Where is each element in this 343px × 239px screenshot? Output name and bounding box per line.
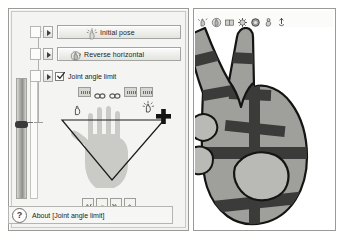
chain-link-icon[interactable]: [94, 87, 106, 97]
chevron-right-icon: [47, 52, 51, 58]
save-hand-icon[interactable]: [263, 14, 274, 25]
preview-toolbar: [196, 11, 333, 27]
slider-value-mark: [27, 122, 33, 123]
question-mark-glyph: ?: [13, 209, 26, 221]
preview-panel: [193, 8, 336, 231]
expand-row-3-button[interactable]: [43, 70, 53, 82]
joint-angle-limit-checkbox-row[interactable]: Joint angle limit: [55, 72, 116, 81]
gear-hand-icon[interactable]: [237, 14, 248, 25]
expand-row-2-button[interactable]: [43, 48, 53, 60]
joint-swatch-icon[interactable]: [140, 87, 153, 97]
chevron-right-icon: [47, 30, 51, 36]
joint-angle-limit-label: Joint angle limit: [68, 73, 116, 80]
arrow-slot-2: [30, 48, 41, 60]
checkmark-icon: [57, 72, 65, 80]
sparkle-hand-icon: [86, 26, 98, 38]
joint-icon-row: [78, 87, 153, 97]
slider-rail[interactable]: [30, 78, 38, 199]
joint-angle-limit-checkbox[interactable]: [55, 72, 64, 81]
left-panel: Initial pose Reverse horizontal: [8, 8, 189, 231]
about-bar[interactable]: ? About [Joint angle limit]: [8, 206, 173, 224]
arrow-slot-1: [30, 26, 41, 38]
slider-guide-tick: [34, 122, 43, 123]
reverse-horizontal-label: Reverse horizontal: [84, 51, 144, 58]
joint-swatch-icon[interactable]: [124, 87, 137, 97]
rotate-hand-icon[interactable]: [250, 14, 261, 25]
v-sign-hand-illustration[interactable]: [195, 27, 334, 229]
spread-hand-icon: [142, 100, 154, 112]
slider-track[interactable]: [16, 78, 27, 199]
hand-palm-diagram[interactable]: [52, 98, 182, 190]
about-text: About [Joint angle limit]: [32, 212, 104, 219]
flip-hand-icon[interactable]: [224, 14, 235, 25]
grab-hand-icon: [72, 102, 84, 114]
crosshair-plus-marker: [156, 109, 171, 124]
initial-pose-button[interactable]: Initial pose: [57, 25, 181, 39]
initial-pose-label: Initial pose: [100, 29, 135, 36]
export-hand-icon[interactable]: [276, 14, 287, 25]
joint-angle-slider[interactable]: [16, 16, 28, 201]
joint-swatch-icon[interactable]: [78, 87, 91, 97]
left-panel-inner: Initial pose Reverse horizontal: [11, 11, 186, 228]
arrow-slot-3: [30, 70, 41, 82]
mirror-hand-icon: [70, 48, 82, 60]
question-mark-icon: ?: [12, 208, 27, 223]
zoom-in-hand-icon[interactable]: [198, 14, 209, 25]
reverse-horizontal-button[interactable]: Reverse horizontal: [57, 47, 181, 61]
expand-row-1-button[interactable]: [43, 26, 53, 38]
app-screenshot: Initial pose Reverse horizontal: [0, 0, 343, 239]
chevron-right-icon: [47, 74, 51, 80]
chain-link-icon[interactable]: [109, 87, 121, 97]
zoom-out-hand-icon[interactable]: [211, 14, 222, 25]
